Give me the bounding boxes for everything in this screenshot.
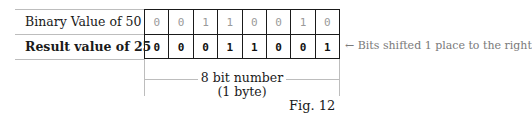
bit-grid: 0 0 1 1 0 0 1 0 0 0 0 1 1 0 0 1 xyxy=(144,9,340,59)
bit-cell: 1 xyxy=(315,35,339,59)
bit-row-result-25: 0 0 0 1 1 0 0 1 xyxy=(145,34,339,59)
span-label-1-byte: (1 byte) xyxy=(144,84,340,99)
bit-cell: 0 xyxy=(266,35,290,59)
span-label-text: 8 bit number xyxy=(198,70,286,85)
row-label-result-25: Result value of 25 xyxy=(15,34,144,59)
bit-cell: 0 xyxy=(145,10,168,34)
bit-row-binary-50: 0 0 1 1 0 0 1 0 xyxy=(145,10,339,34)
bit-cell: 1 xyxy=(193,10,217,34)
bit-cell: 0 xyxy=(168,35,192,59)
bit-cell: 1 xyxy=(217,10,241,34)
bit-cell: 0 xyxy=(315,10,339,34)
bit-cell: 1 xyxy=(217,35,241,59)
row-label-binary-50: Binary Value of 50 xyxy=(15,9,144,34)
table-bottom-rule xyxy=(15,59,144,60)
bit-cell: 0 xyxy=(290,35,314,59)
left-arrow-icon: ← xyxy=(345,39,354,52)
bit-cell: 0 xyxy=(242,10,266,34)
bit-cell: 1 xyxy=(242,35,266,59)
shift-annotation: ← Bits shifted 1 place to the right xyxy=(345,39,532,52)
bit-cell: 0 xyxy=(193,35,217,59)
shift-annotation-text: Bits shifted 1 place to the right xyxy=(358,39,532,52)
bit-cell: 0 xyxy=(168,10,192,34)
bit-cell: 0 xyxy=(266,10,290,34)
bit-cell: 1 xyxy=(290,10,314,34)
span-label-8-bit: 8 bit number xyxy=(144,70,340,85)
figure-caption: Fig. 12 xyxy=(289,98,335,113)
bit-cell: 0 xyxy=(145,35,168,59)
